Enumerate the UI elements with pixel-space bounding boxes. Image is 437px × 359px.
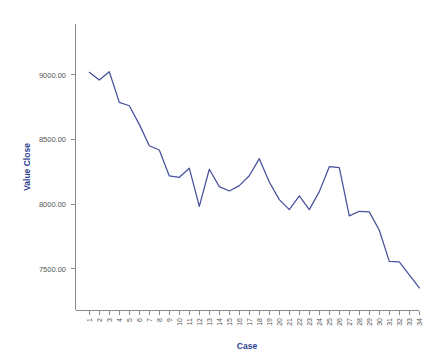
x-tick-label: 1 [86,318,93,322]
x-tick-label: 23 [306,318,313,326]
y-tick-label: 8000.00 [39,200,66,209]
x-tick-label: 12 [196,318,203,326]
x-tick-label: 25 [326,318,333,326]
x-tick-label: 18 [256,318,263,326]
x-tick-label: 28 [356,318,363,326]
x-tick-label: 26 [336,318,343,326]
x-tick-label: 33 [406,318,413,326]
x-tick-label: 8 [156,318,163,322]
x-tick-label: 22 [296,318,303,326]
x-axis-title: Case [237,341,258,351]
x-tick-label: 15 [226,318,233,326]
x-tick-label: 19 [266,318,273,326]
x-tick-label: 32 [396,318,403,326]
x-tick-label: 21 [286,318,293,326]
x-tick-label: 2 [96,318,103,322]
y-tick-label: 8500.00 [39,135,66,144]
x-tick-label: 17 [246,318,253,326]
x-tick-label: 34 [416,318,423,326]
x-tick-label: 11 [186,318,193,325]
x-tick-label: 5 [126,318,133,322]
x-tick-label: 16 [236,318,243,326]
x-tick-label: 14 [216,318,223,326]
x-tick-label: 13 [206,318,213,326]
x-tick-label: 6 [136,318,143,322]
plot-background [0,0,437,359]
x-tick-label: 9 [166,318,173,322]
y-tick-label: 9000.00 [39,71,66,80]
x-tick-label: 20 [276,318,283,326]
x-tick-label: 31 [386,318,393,326]
x-tick-label: 30 [376,318,383,326]
x-tick-label: 10 [176,318,183,326]
chart-canvas: 7500.008000.008500.009000.00 12345678910… [0,0,437,359]
x-tick-label: 4 [116,318,123,322]
x-tick-label: 27 [346,318,353,326]
x-tick-label: 7 [146,318,153,322]
y-axis-title: Value Close [22,143,32,191]
x-tick-label: 3 [106,318,113,322]
x-tick-label: 29 [366,318,373,326]
line-chart: 7500.008000.008500.009000.00 12345678910… [0,0,437,359]
y-tick-label: 7500.00 [39,265,66,274]
x-tick-label: 24 [316,318,323,326]
